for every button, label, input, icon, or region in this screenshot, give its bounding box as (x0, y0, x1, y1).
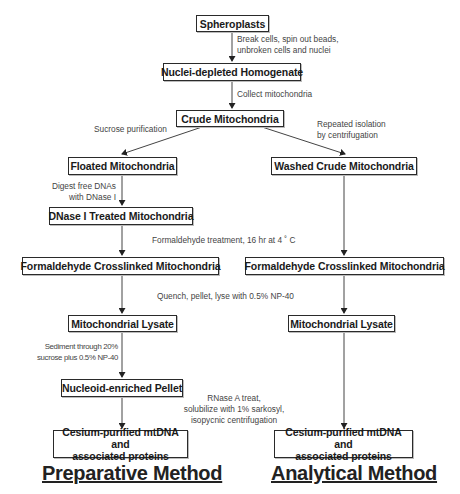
step-collect: Collect mitochondria (237, 89, 312, 100)
step-rnase-line3: isopycnic centrifugation (176, 415, 292, 426)
step-sediment-line2: sucrose plus 0.5% NP-40 (22, 352, 118, 363)
step-rnase-line2: solubilize with 1% sarkosyl, (176, 404, 292, 415)
node-cesium-right: Cesium-purified mtDNA and associated pro… (274, 430, 413, 458)
step-sediment-line1: Sediment through 20% (22, 341, 118, 352)
step-break-cells-line1: Break cells, spin out beads, (237, 34, 338, 45)
step-break-cells-line2: unbroken cells and nuclei (237, 45, 338, 56)
step-rnase-line1: RNase A treat, (176, 393, 292, 404)
node-nucleoid-enriched-pellet: Nucleoid-enriched Pellet (61, 379, 183, 397)
step-repeated-line2: by centrifugation (317, 130, 386, 141)
step-sediment: Sediment through 20% sucrose plus 0.5% N… (22, 341, 118, 363)
step-rnase: RNase A treat, solubilize with 1% sarkos… (176, 393, 292, 426)
cesium-right-line1: Cesium-purified mtDNA and (275, 426, 412, 450)
node-floated-mitochondria: Floated Mitochondria (68, 157, 177, 175)
node-dnase-treated-mitochondria: DNase I Treated Mitochondria (49, 207, 193, 225)
method-title-preparative: Preparative Method (42, 462, 222, 485)
method-title-analytical: Analytical Method (271, 462, 437, 485)
node-lysate-left: Mitochondrial Lysate (68, 315, 177, 332)
step-digest-line1: Digest free DNAs (44, 181, 116, 192)
step-sucrose: Sucrose purification (94, 124, 167, 135)
node-nuclei-depleted-homogenate: Nuclei-depleted Homogenate (163, 63, 301, 81)
step-formaldehyde: Formaldehyde treatment, 16 hr at 4 ˚ C (152, 235, 295, 246)
node-cesium-left: Cesium-purified mtDNA and associated pro… (53, 430, 188, 458)
step-break-cells: Break cells, spin out beads, unbroken ce… (237, 34, 338, 56)
node-lysate-right: Mitochondrial Lysate (288, 315, 395, 332)
node-crude-mitochondria: Crude Mitochondria (176, 110, 284, 127)
node-washed-crude-mitochondria: Washed Crude Mitochondria (271, 157, 417, 175)
step-digest-line2: with DNase I (44, 192, 116, 203)
cesium-right-line2: associated proteins (295, 450, 392, 462)
node-crosslinked-right: Formaldehyde Crosslinked Mitochondria (245, 257, 444, 275)
step-repeated: Repeated isolation by centrifugation (317, 119, 386, 141)
cesium-left-line2: associated proteins (72, 450, 169, 462)
cesium-left-line1: Cesium-purified mtDNA and (54, 426, 187, 450)
step-digest: Digest free DNAs with DNase I (44, 181, 116, 203)
step-quench: Quench, pellet, lyse with 0.5% NP-40 (157, 291, 294, 302)
step-repeated-line1: Repeated isolation (317, 119, 386, 130)
node-spheroplasts: Spheroplasts (196, 15, 269, 32)
node-crosslinked-left: Formaldehyde Crosslinked Mitochondria (22, 257, 219, 275)
